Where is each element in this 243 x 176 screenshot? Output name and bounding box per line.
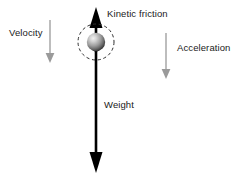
acceleration-arrow-head (162, 69, 171, 79)
weight-label: Weight (104, 99, 134, 110)
kinetic-friction-label: Kinetic friction (107, 8, 168, 19)
acceleration-label: Acceleration (177, 42, 230, 53)
diagram-canvas: Velocity Kinetic friction Acceleration W… (0, 0, 243, 176)
velocity-arrow-head (46, 53, 55, 63)
weight-vector (90, 38, 103, 173)
velocity-label: Velocity (9, 27, 43, 38)
sphere-object (87, 33, 105, 51)
weight-arrow-head (90, 152, 103, 173)
velocity-vector (46, 20, 55, 63)
acceleration-vector (162, 33, 171, 79)
